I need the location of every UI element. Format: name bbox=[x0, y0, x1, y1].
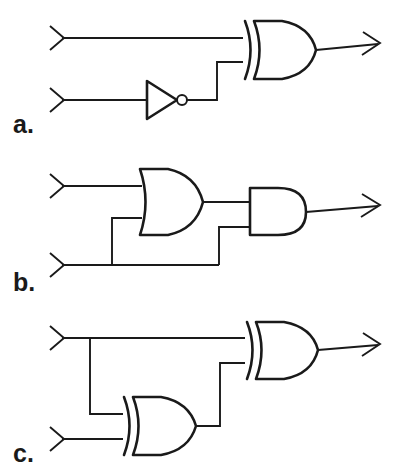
wire-output bbox=[318, 345, 378, 350]
xor-gate-upper bbox=[256, 322, 318, 379]
wire-branch-to-or bbox=[112, 218, 142, 265]
panel-label-b: b. bbox=[13, 268, 35, 296]
chevron-right-icon bbox=[50, 253, 64, 277]
wire-branch-to-and bbox=[219, 227, 250, 265]
not-gate-bubble-icon bbox=[177, 95, 187, 105]
wire-output bbox=[306, 206, 378, 212]
chevron-right-icon bbox=[50, 26, 64, 50]
chevron-right-icon bbox=[50, 174, 64, 198]
or-gate bbox=[140, 169, 203, 235]
not-gate bbox=[147, 81, 177, 119]
panel-label-c: c. bbox=[13, 439, 34, 467]
logic-circuit-figure: a. b. bbox=[0, 0, 407, 471]
xor-gate-upper-front-arc bbox=[247, 322, 253, 379]
panel-label-a: a. bbox=[13, 110, 34, 138]
wire-not-to-xor bbox=[187, 62, 243, 100]
xor-gate-lower-front-arc bbox=[124, 397, 130, 455]
panel-c: c. bbox=[13, 322, 380, 467]
circuit-canvas: a. b. bbox=[0, 0, 407, 471]
panel-b: b. bbox=[13, 169, 380, 296]
wire-output bbox=[316, 44, 378, 50]
wire-branch-to-lower-xor bbox=[90, 338, 123, 414]
xor-gate-lower bbox=[133, 397, 196, 455]
chevron-right-icon bbox=[50, 427, 64, 451]
chevron-right-icon bbox=[50, 88, 64, 112]
panel-a: a. bbox=[13, 21, 380, 138]
xor-gate-front-arc bbox=[245, 21, 251, 79]
wire-lower-xor-to-upper-xor bbox=[196, 363, 245, 426]
xor-gate bbox=[254, 21, 316, 79]
chevron-right-icon bbox=[50, 326, 64, 350]
and-gate bbox=[250, 188, 306, 235]
